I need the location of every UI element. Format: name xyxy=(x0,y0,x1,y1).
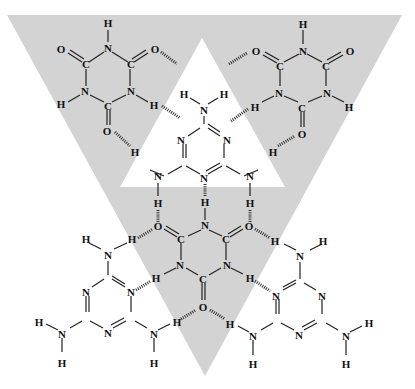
svg-text:N: N xyxy=(342,330,350,342)
svg-text:N: N xyxy=(275,87,283,99)
svg-text:N: N xyxy=(295,329,303,341)
svg-text:N: N xyxy=(104,327,112,339)
svg-text:H: H xyxy=(271,235,280,247)
svg-text:H: H xyxy=(251,101,260,113)
diagram-canvas: H N O O C C N N H H C O H N O O C C N N xyxy=(0,0,415,389)
svg-text:H: H xyxy=(154,197,163,209)
svg-text:O: O xyxy=(298,128,307,140)
svg-text:N: N xyxy=(81,85,89,97)
svg-text:N: N xyxy=(104,42,112,54)
svg-text:N: N xyxy=(150,328,158,340)
svg-text:N: N xyxy=(127,286,135,298)
svg-text:N: N xyxy=(127,85,135,97)
svg-text:O: O xyxy=(57,43,66,55)
svg-text:H: H xyxy=(249,358,258,370)
svg-text:H: H xyxy=(150,357,159,369)
svg-text:C: C xyxy=(322,60,330,72)
svg-text:C: C xyxy=(177,233,185,245)
svg-text:N: N xyxy=(296,250,304,262)
svg-text:N: N xyxy=(249,330,257,342)
svg-text:H: H xyxy=(246,197,255,209)
svg-text:H: H xyxy=(180,88,189,100)
svg-text:H: H xyxy=(299,18,308,30)
svg-text:N: N xyxy=(154,170,162,182)
svg-text:C: C xyxy=(276,60,284,72)
svg-text:C: C xyxy=(104,100,112,112)
svg-text:H: H xyxy=(82,233,91,245)
svg-text:H: H xyxy=(150,99,159,111)
svg-text:N: N xyxy=(318,290,326,302)
svg-text:N: N xyxy=(272,290,280,302)
svg-text:N: N xyxy=(201,219,209,231)
svg-text:H: H xyxy=(345,101,354,113)
svg-text:N: N xyxy=(200,172,208,184)
svg-text:O: O xyxy=(252,45,261,57)
svg-text:N: N xyxy=(58,328,66,340)
svg-text:C: C xyxy=(199,273,207,285)
svg-text:H: H xyxy=(131,146,140,158)
svg-text:N: N xyxy=(223,259,231,271)
svg-text:H: H xyxy=(57,98,66,110)
svg-text:N: N xyxy=(200,104,208,116)
svg-text:N: N xyxy=(246,170,254,182)
melamine-cyanurate-diagram: H N O O C C N N H H C O H N O O C C N N xyxy=(0,0,415,389)
svg-text:C: C xyxy=(298,102,306,114)
svg-text:N: N xyxy=(176,259,184,271)
svg-text:H: H xyxy=(269,146,278,158)
svg-text:H: H xyxy=(201,196,210,208)
svg-text:N: N xyxy=(177,134,185,146)
svg-text:H: H xyxy=(319,235,328,247)
svg-text:H: H xyxy=(342,358,351,370)
svg-text:H: H xyxy=(365,317,374,329)
svg-text:C: C xyxy=(222,233,230,245)
svg-text:O: O xyxy=(151,43,160,55)
svg-text:H: H xyxy=(220,88,229,100)
svg-text:H: H xyxy=(35,316,44,328)
svg-text:H: H xyxy=(58,357,67,369)
svg-text:O: O xyxy=(346,45,355,57)
svg-text:H: H xyxy=(152,272,161,284)
svg-text:H: H xyxy=(128,233,137,245)
svg-text:N: N xyxy=(223,134,231,146)
svg-text:O: O xyxy=(199,301,208,313)
svg-text:N: N xyxy=(323,87,331,99)
svg-text:H: H xyxy=(104,17,113,29)
svg-text:H: H xyxy=(226,318,235,330)
svg-text:C: C xyxy=(82,58,90,70)
svg-text:C: C xyxy=(127,58,135,70)
svg-text:N: N xyxy=(82,286,90,298)
svg-text:N: N xyxy=(104,249,112,261)
svg-text:N: N xyxy=(299,45,307,57)
svg-text:H: H xyxy=(246,272,255,284)
svg-text:O: O xyxy=(103,125,112,137)
